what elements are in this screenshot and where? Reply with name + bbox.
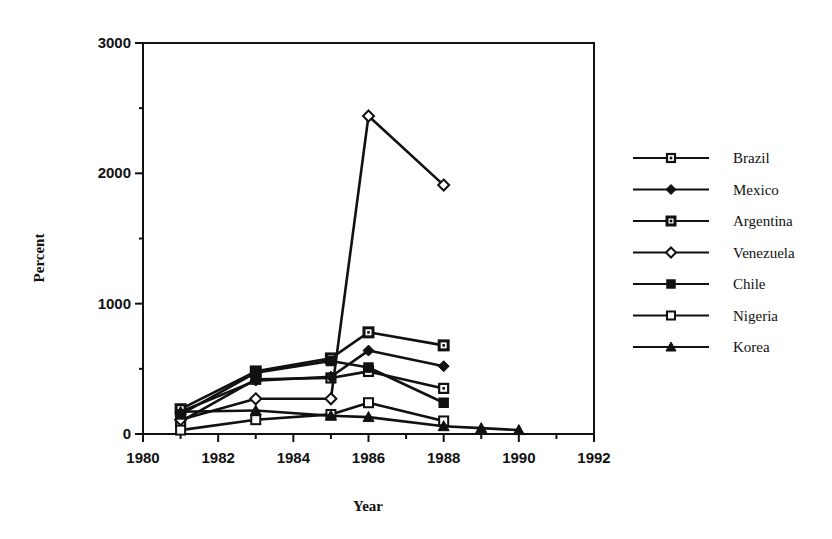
open-square-marker-icon xyxy=(176,426,185,435)
legend-label: Brazil xyxy=(733,150,770,166)
x-tick-label: 1982 xyxy=(201,449,234,466)
marker-dot-icon xyxy=(442,344,445,347)
legend: BrazilMexicoArgentinaVenezuelaChileNiger… xyxy=(633,150,795,355)
legend-label: Mexico xyxy=(733,182,779,198)
x-tick-label: 1990 xyxy=(502,449,535,466)
series-line xyxy=(181,403,444,430)
y-tick-label: 0 xyxy=(123,425,131,442)
marker-dot-icon xyxy=(670,220,673,223)
legend-label: Korea xyxy=(733,339,770,355)
x-tick-label: 1986 xyxy=(352,449,385,466)
y-tick-label: 1000 xyxy=(98,295,131,312)
line-chart: 0100020003000 19801982198419861988199019… xyxy=(0,0,832,539)
series-nigeria xyxy=(176,398,448,434)
x-tick-label: 1988 xyxy=(427,449,460,466)
filled-square-marker-icon xyxy=(439,398,448,407)
open-square-marker-icon xyxy=(667,312,675,320)
open-diamond-marker-icon xyxy=(666,248,676,258)
marker-dot-icon xyxy=(367,331,370,334)
series-line xyxy=(181,351,444,412)
series-line xyxy=(181,411,519,431)
y-tick-label: 2000 xyxy=(98,164,131,181)
x-tick-label: 1992 xyxy=(577,449,610,466)
filled-diamond-marker-icon xyxy=(666,185,676,195)
filled-square-marker-icon xyxy=(667,280,675,288)
legend-label: Nigeria xyxy=(733,308,778,324)
x-tick-label: 1980 xyxy=(126,449,159,466)
legend-item-venezuela: Venezuela xyxy=(633,245,795,261)
legend-item-mexico: Mexico xyxy=(633,182,779,198)
series-layer xyxy=(175,110,524,434)
open-diamond-marker-icon xyxy=(325,393,336,404)
y-axis-title: Percent xyxy=(31,234,47,283)
filled-square-marker-icon xyxy=(251,368,260,377)
filled-square-marker-icon xyxy=(364,363,373,372)
open-diamond-marker-icon xyxy=(250,393,261,404)
series-line xyxy=(181,116,444,420)
marker-dot-icon xyxy=(670,157,673,160)
legend-item-brazil: Brazil xyxy=(633,150,770,166)
y-axis: 0100020003000 xyxy=(98,34,143,442)
legend-label: Venezuela xyxy=(733,245,795,261)
x-axis: 1980198219841986198819901992 xyxy=(126,434,610,466)
legend-label: Chile xyxy=(733,276,766,292)
open-square-marker-icon xyxy=(364,398,373,407)
x-tick-label: 1984 xyxy=(277,449,311,466)
marker-dot-icon xyxy=(442,387,445,390)
open-square-marker-icon xyxy=(251,415,260,424)
legend-item-korea: Korea xyxy=(633,339,770,355)
series-line xyxy=(181,361,444,414)
legend-item-argentina: Argentina xyxy=(633,213,793,229)
filled-square-marker-icon xyxy=(326,357,335,366)
x-axis-title: Year xyxy=(353,498,383,514)
filled-diamond-marker-icon xyxy=(438,361,449,372)
legend-item-nigeria: Nigeria xyxy=(633,308,778,324)
legend-item-chile: Chile xyxy=(633,276,766,292)
legend-label: Argentina xyxy=(733,213,793,229)
y-tick-label: 3000 xyxy=(98,34,131,51)
